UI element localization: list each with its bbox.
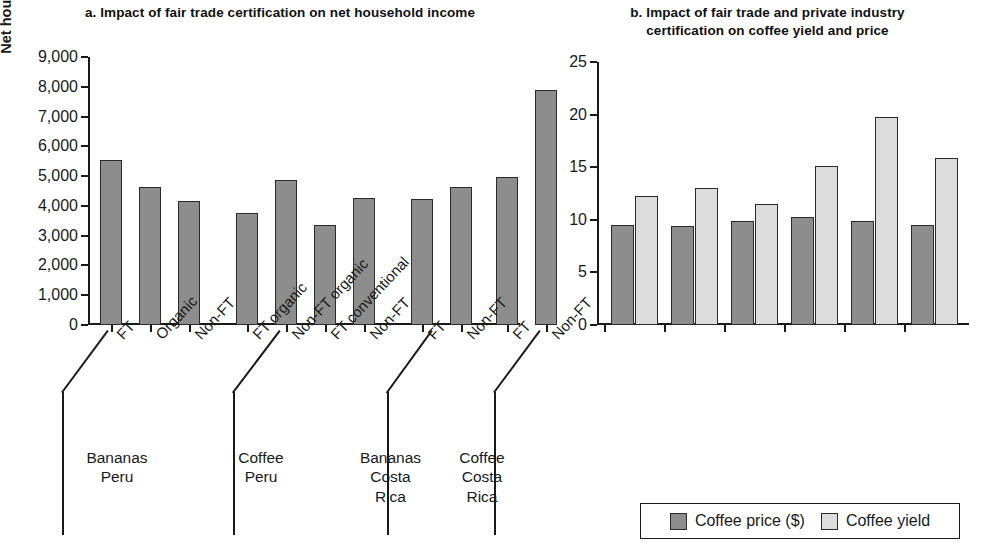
y-tick-label: 4,000 <box>38 197 78 215</box>
legend-swatch-light <box>821 513 838 530</box>
y-tick-mark <box>81 235 88 237</box>
bar-panel-b-price <box>671 226 694 325</box>
legend-item: Coffee yield <box>821 512 930 530</box>
y-tick-label: 2,000 <box>38 256 78 274</box>
bar-panel-b-yield <box>935 158 958 325</box>
x-tick-mark <box>844 325 846 332</box>
y-tick-label: 9,000 <box>38 48 78 66</box>
group-label-line: Bananas <box>62 448 172 467</box>
y-tick-mark <box>590 271 597 273</box>
legend-label: Coffee yield <box>846 512 930 530</box>
group-label: CoffeePeru <box>176 448 346 487</box>
bar-panel-a <box>139 187 161 325</box>
bar-panel-b-yield <box>695 188 718 325</box>
bar-panel-a <box>236 213 258 325</box>
y-tick-label: 0 <box>578 316 587 334</box>
bar-panel-b-price <box>731 221 754 325</box>
chart-panel-a: a. Impact of fair trade certification on… <box>0 0 540 545</box>
y-tick-label: 10 <box>569 210 587 228</box>
x-tick-mark <box>784 325 786 332</box>
y-tick-mark <box>590 114 597 116</box>
y-tick-mark <box>81 324 88 326</box>
bar-panel-b-yield <box>755 204 778 325</box>
bar-panel-b-price <box>851 221 874 325</box>
group-label: BananasPeru <box>62 448 172 487</box>
panel-a-y-axis <box>88 57 90 325</box>
legend: Coffee price ($)Coffee yield <box>640 503 960 539</box>
y-tick-mark <box>81 294 88 296</box>
bracket-diagonal <box>493 330 540 393</box>
y-tick-label: 0 <box>69 316 78 334</box>
y-tick-mark <box>590 166 597 168</box>
group-label-line: Rica <box>437 487 527 506</box>
y-tick-mark <box>590 219 597 221</box>
bracket-diagonal <box>232 330 280 393</box>
bar-panel-b-price <box>911 225 934 325</box>
y-tick-label: 6,000 <box>38 137 78 155</box>
panel-b-title: b. Impact of fair trade and private indu… <box>595 4 940 40</box>
bar-panel-b-yield <box>875 117 898 325</box>
x-tick-mark <box>604 325 606 332</box>
y-tick-mark <box>81 56 88 58</box>
y-tick-mark <box>81 86 88 88</box>
group-label-line: Peru <box>62 467 172 486</box>
group-label-line: Rica <box>348 487 433 506</box>
bar-panel-b-yield <box>635 196 658 325</box>
panel-a-y-axis-label: Net household income (US$) <box>0 0 14 75</box>
bar-panel-b-yield <box>815 166 838 325</box>
group-label-line: Peru <box>176 467 346 486</box>
bar-panel-b-price <box>791 217 814 325</box>
group-label-line: Coffee <box>437 448 527 467</box>
group-label-line: Costa <box>348 467 433 486</box>
y-tick-mark <box>590 61 597 63</box>
y-tick-label: 5,000 <box>38 167 78 185</box>
group-label-line: Bananas <box>348 448 433 467</box>
group-label-line: Coffee <box>176 448 346 467</box>
legend-item: Coffee price ($) <box>670 512 805 530</box>
bar-panel-a <box>100 160 122 325</box>
group-label-line: Costa <box>437 467 527 486</box>
y-tick-label: 15 <box>569 158 587 176</box>
legend-label: Coffee price ($) <box>695 512 805 530</box>
y-tick-label: 8,000 <box>38 77 78 95</box>
group-label: BananasCostaRica <box>348 448 433 506</box>
chart-panel-b: b. Impact of fair trade and private indu… <box>540 0 981 545</box>
y-tick-label: 1,000 <box>38 286 78 304</box>
x-tick-mark <box>724 325 726 332</box>
bar-panel-a <box>450 187 472 325</box>
y-tick-mark <box>590 324 597 326</box>
group-label: CoffeeCostaRica <box>437 448 527 506</box>
panel-b-plot-area: 0510152025 <box>597 62 969 325</box>
x-tick-mark <box>664 325 666 332</box>
y-tick-mark <box>81 175 88 177</box>
y-tick-mark <box>81 205 88 207</box>
y-tick-label: 5 <box>578 263 587 281</box>
y-tick-label: 25 <box>569 53 587 71</box>
panel-a-title: a. Impact of fair trade certification on… <box>30 4 530 22</box>
panel-b-title-line2: certification on coffee yield and price <box>646 23 888 38</box>
legend-swatch-dark <box>670 513 687 530</box>
panel-b-y-axis <box>597 62 599 325</box>
bracket-diagonal <box>61 330 108 393</box>
y-tick-mark <box>81 116 88 118</box>
x-tick-mark <box>904 325 906 332</box>
bar-panel-b-price <box>611 225 634 325</box>
bracket-diagonal <box>386 330 432 393</box>
bar-panel-a <box>411 199 433 325</box>
panel-b-title-line1: b. Impact of fair trade and private indu… <box>630 5 904 20</box>
y-tick-mark <box>81 264 88 266</box>
y-tick-label: 7,000 <box>38 107 78 125</box>
y-tick-label: 20 <box>569 105 587 123</box>
y-tick-label: 3,000 <box>38 226 78 244</box>
y-tick-mark <box>81 145 88 147</box>
